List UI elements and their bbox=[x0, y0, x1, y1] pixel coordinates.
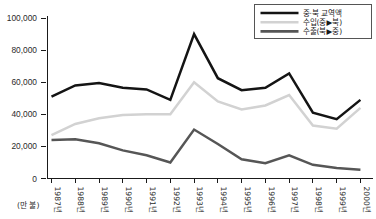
series-line bbox=[52, 34, 361, 119]
series-line bbox=[52, 82, 361, 135]
y-axis: 020,00040,00060,00080,000100,000 bbox=[7, 13, 46, 184]
line-chart: 020,00040,00060,00080,000100,000(만 불)198… bbox=[0, 0, 376, 219]
y-axis-tick-label: 80,000 bbox=[11, 45, 37, 55]
x-axis-tick-label: 1987년 bbox=[53, 187, 63, 213]
y-axis-tick-label: 60,000 bbox=[11, 77, 37, 87]
legend: 중·북 교역액수입(중▶북)수출(북▶중) bbox=[255, 5, 372, 39]
x-axis-tick-label: 1996년 bbox=[267, 187, 277, 213]
y-axis-tick-label: 40,000 bbox=[11, 109, 37, 119]
x-axis-tick-label: 1998년 bbox=[314, 187, 324, 213]
x-axis-tick-label: 2000년 bbox=[362, 187, 372, 213]
x-axis-tick-label: 1995년 bbox=[243, 187, 253, 213]
x-axis-tick-label: 1988년 bbox=[76, 187, 86, 213]
legend-item-label: 수출(북▶중) bbox=[303, 26, 343, 36]
x-axis: 1987년1988년1989년1990년1991년1992년1993년1994년… bbox=[52, 179, 372, 213]
x-axis-tick-label: 1989년 bbox=[100, 187, 110, 213]
series-group bbox=[52, 34, 361, 170]
x-axis-tick-label: 1994년 bbox=[219, 187, 229, 213]
x-axis-tick-label: 1997년 bbox=[290, 187, 300, 213]
y-axis-tick-label: 100,000 bbox=[7, 13, 38, 23]
legend-item-label: 중·북 교역액 bbox=[303, 8, 343, 18]
unit-label: (만 불) bbox=[17, 201, 40, 210]
series-line bbox=[52, 130, 361, 170]
legend-item-label: 수입(중▶북) bbox=[303, 18, 343, 27]
x-axis-tick-label: 1992년 bbox=[172, 187, 182, 213]
x-axis-tick-label: 1990년 bbox=[124, 187, 134, 213]
x-axis-tick-label: 1993년 bbox=[195, 187, 205, 213]
y-axis-tick-label: 20,000 bbox=[11, 141, 37, 151]
x-axis-tick-label: 1999년 bbox=[338, 187, 348, 213]
chart-container: 020,00040,00060,00080,000100,000(만 불)198… bbox=[0, 0, 376, 219]
y-axis-tick-label: 0 bbox=[32, 174, 37, 184]
x-axis-tick-label: 1991년 bbox=[148, 187, 158, 213]
